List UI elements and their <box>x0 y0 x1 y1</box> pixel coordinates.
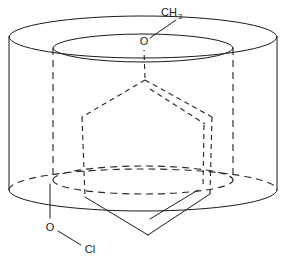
benzene-double-bond-bottom-right <box>150 190 198 219</box>
methyl-label: CH <box>161 6 177 18</box>
chloro-oxy-substituent-group: O Cl <box>46 184 95 255</box>
benzene-edge-bottom-left <box>85 197 148 235</box>
outer-cylinder-bottom-rim-front-arc <box>9 190 277 211</box>
oxygen-bottom-label: O <box>46 221 55 233</box>
methyl-label-text: CH <box>161 6 177 18</box>
bond-c1-to-oxygen-top <box>144 50 145 78</box>
oxygen-top-label: O <box>140 35 149 47</box>
inner-cylinder-top-rim-front-arc <box>53 48 233 62</box>
methoxy-substituent-group: O CH 3 <box>140 6 182 78</box>
benzene-double-bond-right <box>203 125 204 188</box>
inner-cylinder-bottom-rim-front-arc <box>53 180 233 194</box>
methyl-label-subscript: 3 <box>178 12 182 21</box>
benzene-edge-right <box>210 117 212 194</box>
benzene-edge-top-left <box>82 80 145 117</box>
bond-oxygen-bottom-to-chlorine <box>58 231 81 245</box>
chemical-structure-drawing: O CH 3 O Cl <box>0 0 287 259</box>
chemical-diagram-canvas: O CH 3 O Cl <box>0 0 287 259</box>
chlorine-label: Cl <box>85 243 95 255</box>
inner-cylinder-bottom-rim-back-arc <box>53 166 233 180</box>
benzene-edge-top-right <box>145 80 212 117</box>
outer-cylinder-bottom-rim-back-arc <box>9 169 277 190</box>
benzene-double-bond-top-right <box>150 89 205 124</box>
benzene-ring-group <box>82 80 212 235</box>
benzene-edge-left <box>82 117 85 197</box>
bond-oxygen-top-to-methyl <box>150 20 176 38</box>
